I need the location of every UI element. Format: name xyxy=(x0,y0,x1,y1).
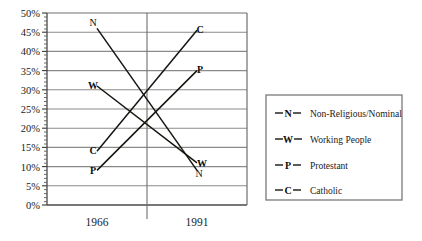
chart-canvas: 50% 45% 40% 35% 30% 25% 20% 15% 10% 5% 0… xyxy=(0,0,422,241)
legend-marker-n: N xyxy=(284,108,292,119)
ytick-label-40: 40% xyxy=(21,46,41,57)
marker-w-1966: W xyxy=(88,80,98,91)
marker-c-1966: C xyxy=(89,145,96,156)
ytick-label-0: 0% xyxy=(26,200,40,211)
legend-marker-c: C xyxy=(284,185,291,196)
marker-p-1966: P xyxy=(90,165,96,176)
ytick-label-25: 25% xyxy=(21,104,41,115)
marker-p-1991: P xyxy=(197,64,203,75)
ytick-label-10: 10% xyxy=(21,162,41,173)
ytick-label-35: 35% xyxy=(21,66,41,77)
legend-label-protestant: Protestant xyxy=(310,161,348,171)
xtick-label-1966: 1966 xyxy=(86,216,109,228)
ytick-label-15: 15% xyxy=(21,142,41,153)
ytick-label-20: 20% xyxy=(21,123,41,134)
marker-n-1966: N xyxy=(89,17,96,28)
ytick-label-30: 30% xyxy=(21,85,41,96)
ytick-label-45: 45% xyxy=(21,27,41,38)
marker-n-1991: N xyxy=(195,168,202,179)
xtick-label-1991: 1991 xyxy=(186,216,209,228)
legend-label-catholic: Catholic xyxy=(310,186,342,196)
legend-item-working-people[interactable]: W Working People xyxy=(275,134,371,145)
chart-legend: N Non-Religious/Nominal W Working People… xyxy=(266,95,402,200)
legend-marker-p: P xyxy=(285,160,291,171)
ytick-label-50: 50% xyxy=(21,8,41,19)
slope-chart-figure: 50% 45% 40% 35% 30% 25% 20% 15% 10% 5% 0… xyxy=(0,0,422,241)
marker-c-1991: C xyxy=(196,24,203,35)
legend-marker-w: W xyxy=(283,134,293,145)
legend-label-non-religious-nominal: Non-Religious/Nominal xyxy=(310,109,402,119)
legend-label-working-people: Working People xyxy=(310,135,371,145)
legend-item-protestant[interactable]: P Protestant xyxy=(275,160,348,171)
ytick-label-5: 5% xyxy=(26,181,40,192)
